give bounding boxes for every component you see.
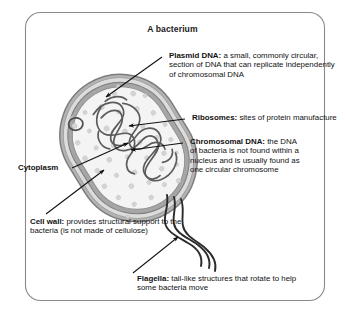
page-title: A bacterium bbox=[0, 24, 345, 34]
label-flagella-term: Flagella: bbox=[137, 274, 169, 283]
label-plasmid-dna-term: Plasmid DNA: bbox=[169, 51, 221, 60]
label-cell-wall-term: Cell wall: bbox=[30, 217, 64, 226]
label-flagella: Flagella: tail-like structures that rota… bbox=[137, 274, 317, 293]
label-cytoplasm: Cytoplasm bbox=[18, 163, 58, 172]
bacterium-diagram: A bacterium Plasmid DNA: a small, common… bbox=[0, 0, 345, 325]
label-ribosomes-term: Ribosomes: bbox=[192, 113, 237, 122]
label-cell-wall: Cell wall: provides structural support t… bbox=[30, 217, 190, 236]
label-cytoplasm-term: Cytoplasm bbox=[18, 163, 58, 172]
label-chromosomal-dna-term: Chromosomal DNA: bbox=[190, 137, 265, 146]
label-ribosomes: Ribosomes: sites of protein manufacture bbox=[192, 113, 338, 122]
label-ribosomes-desc: sites of protein manufacture bbox=[239, 113, 336, 122]
label-plasmid-dna: Plasmid DNA: a small, commonly circular,… bbox=[169, 51, 337, 79]
label-chromosomal-dna: Chromosomal DNA: the DNA of bacteria is … bbox=[190, 137, 302, 175]
